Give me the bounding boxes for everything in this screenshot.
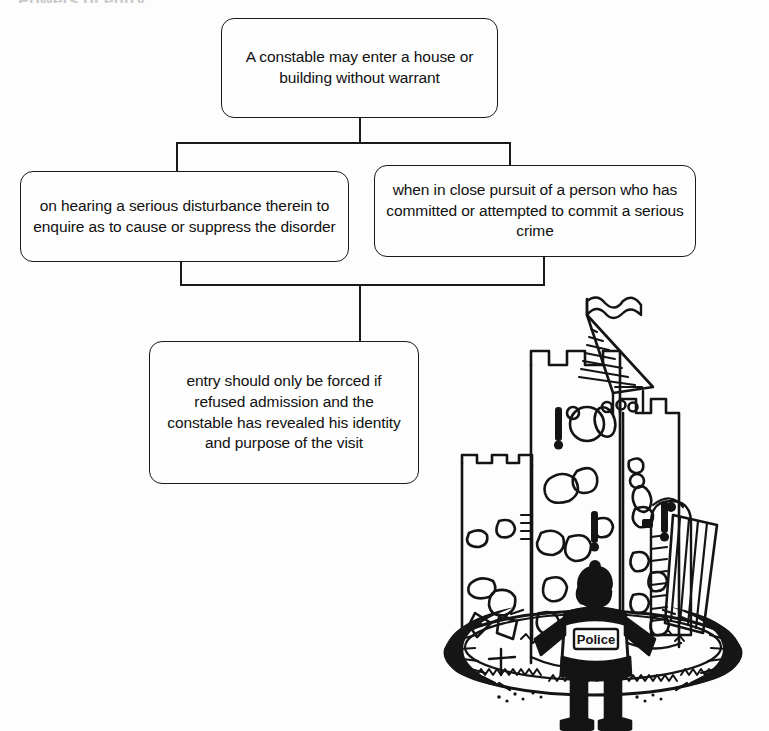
flowchart-node-branch-left: on hearing a serious disturbance therein… [20,171,349,262]
connector-note-down [359,284,361,342]
policeman-figure: Police [535,561,655,731]
connector-merge-left [180,261,182,285]
diagram-page: Powers of entry A constable may enter a … [0,0,769,731]
cut-off-heading: Powers of entry [18,0,248,3]
node-root-label: A constable may enter a house or buildin… [222,47,497,89]
flowchart-node-branch-right: when in close pursuit of a person who ha… [374,165,696,257]
pennant-flag [587,297,641,318]
flowchart-node-root: A constable may enter a house or buildin… [221,18,498,118]
node-branch-right-label: when in close pursuit of a person who ha… [375,180,695,242]
node-note-label: entry should only be forced if refused a… [150,371,418,454]
connector-merge-bar [180,284,545,286]
flowchart-node-note: entry should only be forced if refused a… [149,341,419,484]
connector-split-left [176,142,178,172]
connector-merge-right [543,256,545,285]
connector-root-down [359,117,361,143]
node-branch-left-label: on hearing a serious disturbance therein… [21,196,348,238]
connector-split-right [509,142,511,166]
police-vest-text: Police [577,632,615,647]
connector-split-bar [176,142,511,144]
castle-with-policeman-illustration: Police [437,283,769,731]
